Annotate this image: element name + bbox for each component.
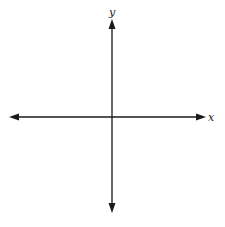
y-axis-up-arrow-icon [109,19,116,29]
y-axis-down-arrow-icon [109,203,116,213]
coordinate-plane: y x [0,0,225,227]
x-axis-left-arrow-icon [9,114,19,121]
y-axis [109,19,116,213]
x-axis-right-arrow-icon [196,114,206,121]
x-axis-label: x [208,111,215,124]
x-axis [9,114,206,121]
y-axis-label: y [108,6,116,19]
